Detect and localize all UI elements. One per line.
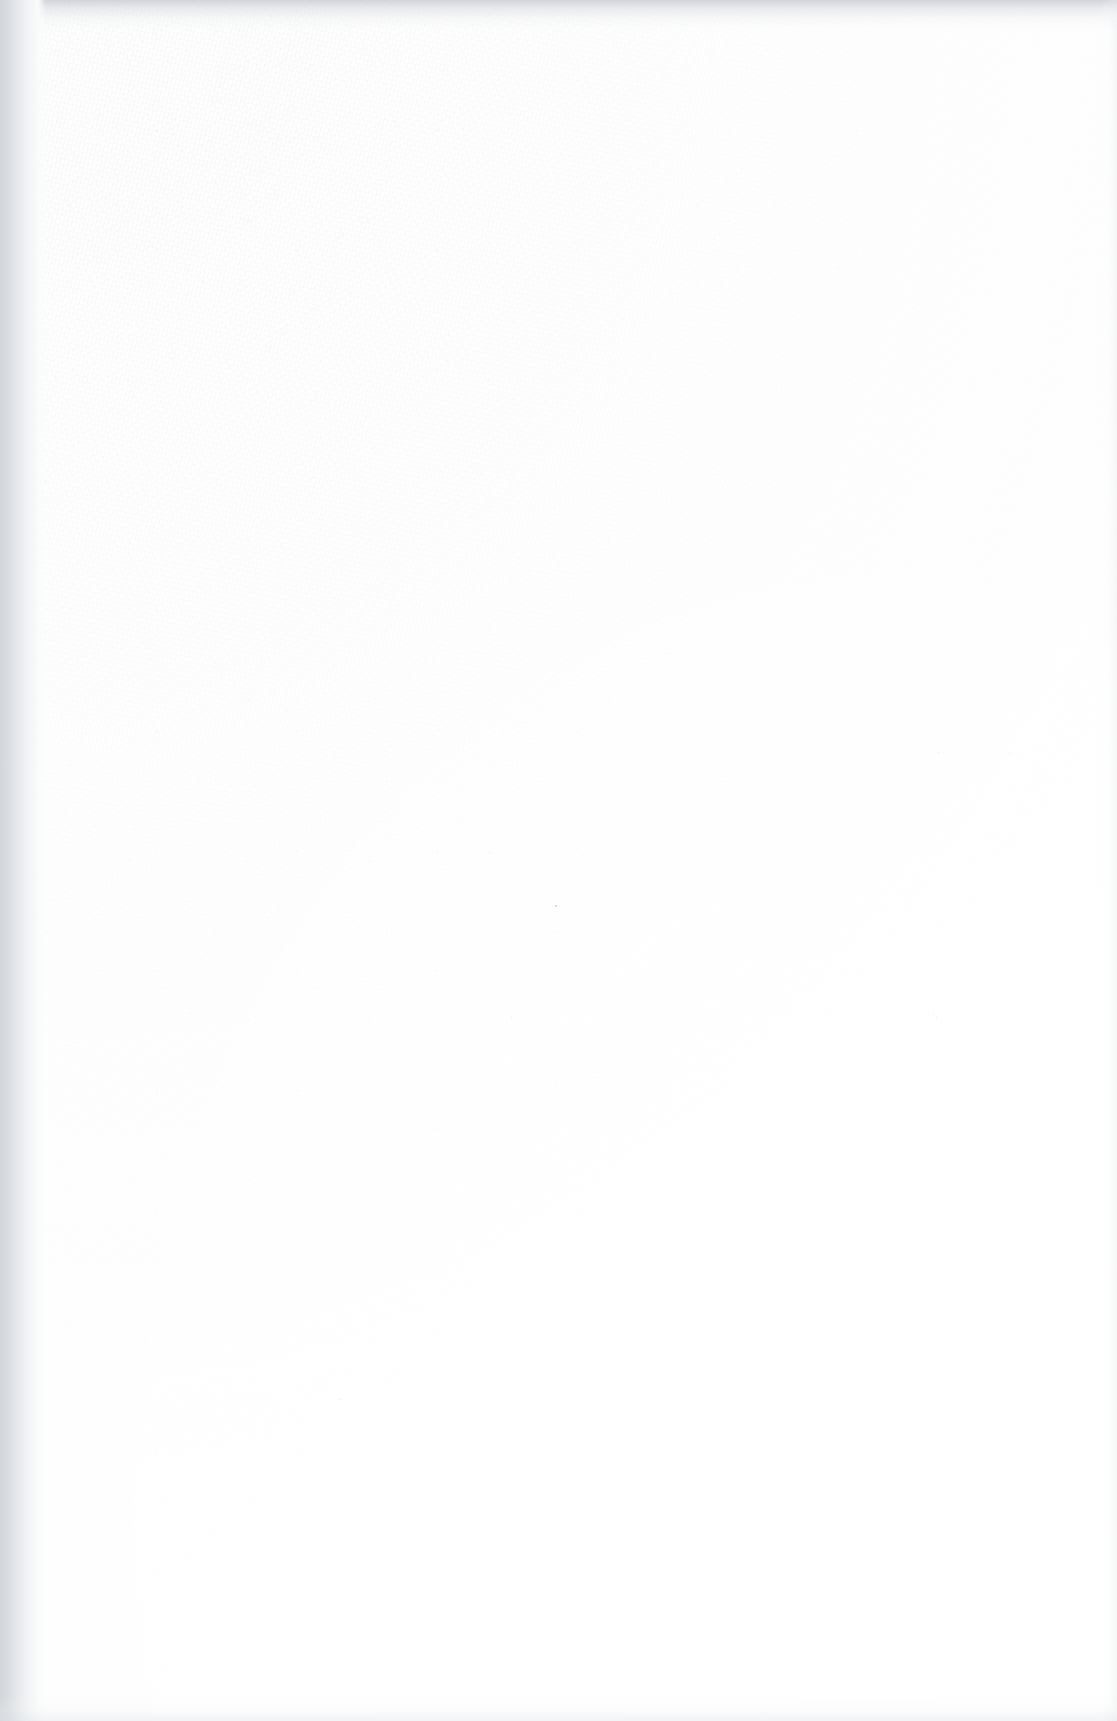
page-content-area <box>0 0 1117 1721</box>
scanned-page <box>0 0 1117 1721</box>
